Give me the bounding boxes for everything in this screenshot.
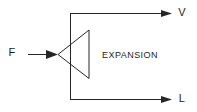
port-label-f: F: [9, 46, 16, 58]
arrowhead-f-icon: [46, 50, 58, 59]
expansion-block-label: EXPANSION: [102, 50, 158, 60]
block-diagram: F V L EXPANSION: [0, 0, 197, 112]
diagram-canvas: F V L EXPANSION: [0, 0, 197, 112]
arrowhead-v-icon: [161, 10, 172, 17]
port-label-l: L: [179, 92, 185, 104]
arrowhead-l-icon: [161, 96, 172, 103]
expansion-triangle-shape: [58, 30, 89, 79]
port-label-v: V: [178, 6, 186, 18]
